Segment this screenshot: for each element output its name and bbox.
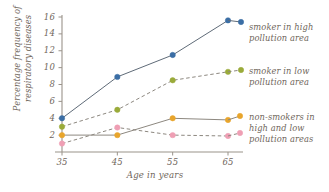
x-axis-title: Age in years <box>110 170 200 180</box>
series-line <box>62 20 228 118</box>
respiratory-disease-line-chart: Percentage frequency of respiratory dise… <box>0 0 329 192</box>
legend-item-smoker-high-pollution: smoker in high pollution area <box>249 22 327 44</box>
data-point-marker <box>115 107 120 112</box>
data-point-marker <box>115 132 120 137</box>
legend-item-smoker-low-pollution: smoker in low pollution area <box>249 66 327 88</box>
data-point-marker <box>170 132 175 137</box>
data-point-marker <box>115 74 120 79</box>
data-point-marker <box>170 52 175 57</box>
series-line <box>62 118 228 135</box>
y-tick-label: 6 <box>41 96 55 106</box>
x-tick-label: 55 <box>163 157 183 167</box>
legend-marker <box>238 19 243 24</box>
legend-item-non-smokers: non-smokers in high and low pollution ar… <box>249 112 327 145</box>
data-series <box>59 18 230 147</box>
x-tick-label: 65 <box>218 157 238 167</box>
axes <box>55 15 243 156</box>
y-tick-label: 14 <box>41 28 55 38</box>
y-tick-label: 10 <box>41 62 55 72</box>
data-point-marker <box>59 116 64 121</box>
data-point-marker <box>59 132 64 137</box>
data-point-marker <box>59 141 64 146</box>
y-tick-label: 2 <box>41 130 55 140</box>
y-tick-label: 8 <box>41 79 55 89</box>
data-point-marker <box>115 125 120 130</box>
y-axis-title: Percentage frequency of respiratory dise… <box>12 0 33 119</box>
data-point-marker <box>59 124 64 129</box>
legend-marker <box>238 67 243 72</box>
y-tick-label: 4 <box>41 113 55 123</box>
legend-marker <box>237 130 242 135</box>
x-tick-label: 45 <box>107 157 127 167</box>
y-tick-label: 16 <box>41 12 55 22</box>
data-point-marker <box>170 116 175 121</box>
x-tick-label: 35 <box>52 157 72 167</box>
y-tick-label: 12 <box>41 45 55 55</box>
data-point-marker <box>170 78 175 83</box>
legend-marker <box>237 113 242 118</box>
